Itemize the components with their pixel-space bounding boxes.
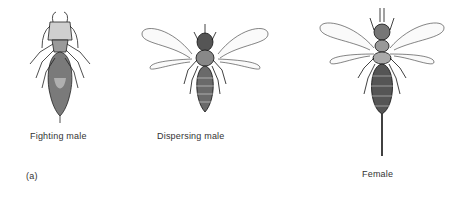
fighting-male-caption: Fighting male xyxy=(30,131,87,141)
female-illustration xyxy=(312,6,452,158)
dispersing-male-illustration xyxy=(140,14,270,114)
female-caption: Female xyxy=(362,169,393,179)
panel-label: (a) xyxy=(26,171,38,181)
fighting-male-illustration xyxy=(20,8,100,126)
dispersing-male-caption: Dispersing male xyxy=(157,131,225,141)
